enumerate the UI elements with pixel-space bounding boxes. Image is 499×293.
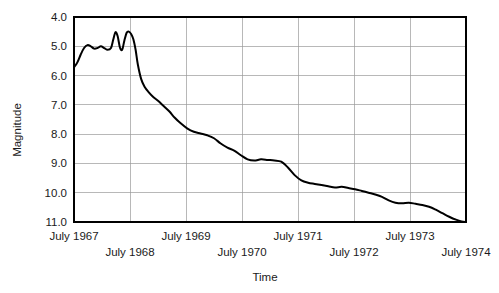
y-axis-tick-label: 6.0 <box>51 70 67 82</box>
y-axis-tick-label: 11.0 <box>45 216 67 228</box>
x-axis-tick-label: July 1971 <box>273 230 322 242</box>
x-axis-tick-label: July 1969 <box>161 230 210 242</box>
x-axis-tick-label: July 1974 <box>441 246 491 258</box>
y-axis-tick-label: 7.0 <box>51 99 67 111</box>
x-axis-tick-label: July 1970 <box>217 246 266 258</box>
y-axis-tick-label: 9.0 <box>51 157 67 169</box>
y-axis-title: Magnitude <box>11 103 23 157</box>
chart-canvas: 4.05.06.07.08.09.010.011.0 July 1967July… <box>0 0 499 293</box>
x-axis-tick-label: July 1972 <box>329 246 378 258</box>
magnitude-vs-time-chart: 4.05.06.07.08.09.010.011.0 July 1967July… <box>0 0 499 293</box>
y-axis-tick-label: 5.0 <box>51 40 67 52</box>
x-axis-tick-label: July 1967 <box>49 230 98 242</box>
y-axis-tick-label: 8.0 <box>51 128 67 140</box>
y-axis-tick-label: 4.0 <box>51 11 67 23</box>
x-axis-tick-label: July 1973 <box>385 230 434 242</box>
x-axis-title: Time <box>252 271 277 283</box>
x-axis-tick-label: July 1968 <box>105 246 154 258</box>
y-axis-tick-label: 10.0 <box>45 187 67 199</box>
